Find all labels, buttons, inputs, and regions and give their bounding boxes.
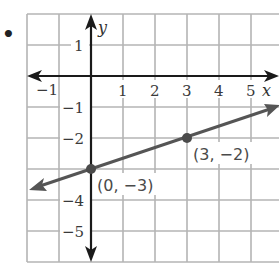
x-tick-neg1: −1 xyxy=(36,81,58,99)
y-axis-label: y xyxy=(97,18,108,37)
y-tick-1: 1 xyxy=(74,37,84,55)
x-tick-5: 5 xyxy=(246,82,256,100)
y-tick-neg1: −1 xyxy=(62,99,84,117)
point-label-0-neg3: (0, −3) xyxy=(97,176,153,195)
x-tick-3: 3 xyxy=(182,82,192,100)
x-tick-4: 4 xyxy=(214,82,224,100)
y-tick-neg2: −2 xyxy=(62,130,84,148)
y-tick-neg4: −4 xyxy=(62,192,84,210)
x-axis-label: x xyxy=(262,81,271,100)
coordinate-graph: y x −1 1 2 3 4 5 1 −1 −2 −4 −5 (0, −3) (… xyxy=(0,0,279,266)
x-tick-2: 2 xyxy=(150,82,160,100)
point-0-neg3 xyxy=(86,164,96,174)
x-tick-1: 1 xyxy=(118,82,128,100)
y-tick-neg5: −5 xyxy=(62,223,84,241)
point-label-3-neg2: (3, −2) xyxy=(193,145,249,164)
point-3-neg2 xyxy=(182,133,192,143)
